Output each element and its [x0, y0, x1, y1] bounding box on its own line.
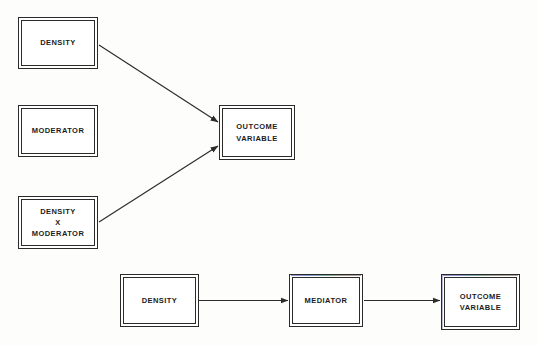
- node-density-top: DENSITY: [18, 17, 98, 69]
- node-outcome-variable-bottom: OUTCOME VARIABLE: [441, 274, 520, 330]
- node-density-x-moderator-label: DENSITY X MODERATOR: [32, 206, 85, 240]
- node-moderator: MODERATOR: [18, 105, 98, 157]
- node-mediator-label: MEDIATOR: [305, 295, 348, 306]
- node-outcome-variable-top: OUTCOME VARIABLE: [219, 105, 295, 160]
- node-moderator-label: MODERATOR: [32, 125, 85, 136]
- node-moderator-inner: MODERATOR: [21, 108, 95, 154]
- arrow-interaction-to-outcome: [99, 146, 218, 222]
- node-density-x-moderator-inner: DENSITY X MODERATOR: [21, 199, 95, 246]
- node-density-top-inner: DENSITY: [21, 20, 95, 66]
- node-outcome-variable-bottom-label: OUTCOME VARIABLE: [460, 291, 501, 314]
- node-mediator: MEDIATOR: [289, 274, 363, 327]
- node-density-bottom-inner: DENSITY: [123, 277, 196, 324]
- node-outcome-variable-top-inner: OUTCOME VARIABLE: [222, 108, 292, 157]
- node-density-top-label: DENSITY: [40, 37, 76, 48]
- node-outcome-variable-top-label: OUTCOME VARIABLE: [236, 121, 277, 144]
- node-density-bottom: DENSITY: [120, 274, 199, 327]
- node-outcome-variable-bottom-inner: OUTCOME VARIABLE: [444, 277, 517, 327]
- diagram-canvas: DENSITY MODERATOR DENSITY X MODERATOR OU…: [0, 0, 538, 345]
- node-mediator-inner: MEDIATOR: [292, 277, 360, 324]
- node-density-x-moderator: DENSITY X MODERATOR: [18, 196, 98, 249]
- arrow-density-to-outcome: [99, 45, 218, 122]
- node-density-bottom-label: DENSITY: [142, 295, 178, 306]
